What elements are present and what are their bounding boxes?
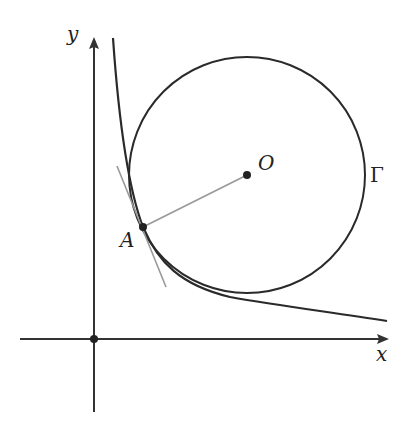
x-axis-label: x [376, 344, 387, 364]
radius-segment-OA [143, 175, 247, 227]
point-O-label: O [258, 153, 274, 173]
y-axis-label: y [67, 24, 78, 44]
origin-point [90, 335, 98, 343]
point-A-label: A [120, 230, 134, 250]
diagram-canvas [0, 0, 410, 425]
y-axis [89, 37, 99, 412]
point-O [243, 171, 251, 179]
circle-gamma-label: Γ [370, 165, 384, 185]
curve [113, 38, 387, 321]
point-A [139, 223, 147, 231]
x-axis [20, 334, 389, 344]
